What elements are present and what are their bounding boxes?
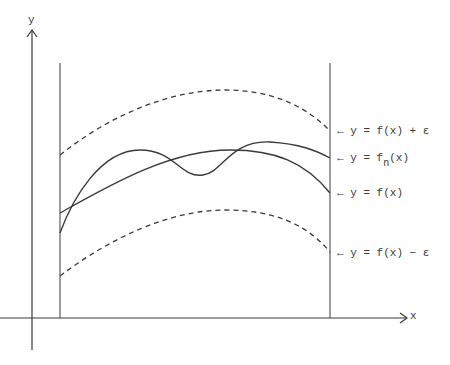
upper-bound-curve (60, 90, 330, 155)
function-label: ← y = f(x) (337, 187, 403, 199)
label-arrow-prefix: ← y = (337, 125, 377, 137)
label-argument: (x) (389, 152, 409, 164)
label-arrow-prefix: ← y = (337, 247, 377, 259)
y-axis-label: y (28, 14, 35, 26)
approximation-label: ← y = fn(x) (337, 152, 409, 164)
lower-bound-curve (60, 210, 330, 276)
lower-bound-label: ← y = f(x) − ε (337, 247, 429, 259)
label-expression: f(x) + ε (377, 125, 430, 137)
label-expression: f(x) − ε (377, 247, 430, 259)
label-arrow-prefix: ← y = (337, 187, 377, 199)
uniform-convergence-diagram (0, 0, 450, 365)
approximation-curve (60, 142, 330, 233)
label-arrow-prefix: ← y = (337, 152, 377, 164)
upper-bound-label: ← y = f(x) + ε (337, 125, 429, 137)
label-expression: f(x) (377, 187, 403, 199)
x-axis-label: x (410, 310, 417, 322)
function-curve (60, 150, 330, 213)
